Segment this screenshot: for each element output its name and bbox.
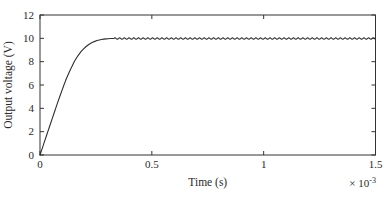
y-tick-label: 12	[23, 9, 34, 21]
x-axis-multiplier: × 10-3	[349, 176, 376, 189]
y-tick-label: 10	[23, 32, 35, 44]
y-tick-label: 6	[29, 79, 35, 91]
x-tick-label: 1	[261, 158, 267, 170]
plot-area-frame	[40, 15, 376, 155]
y-tick-label: 0	[29, 149, 35, 161]
x-axis-multiplier-exponent: -3	[369, 176, 376, 185]
axis-ticks	[40, 15, 376, 155]
y-tick-label: 2	[29, 125, 35, 137]
y-tick-label: 8	[29, 55, 35, 67]
x-tick-label: 0.5	[145, 158, 159, 170]
x-tick-label: 1.5	[369, 158, 383, 170]
x-axis-multiplier-base: × 10	[349, 177, 369, 189]
voltage-step-response-figure: 00.511.5024681012 Time (s) Output voltag…	[0, 0, 392, 204]
y-axis-label: Output voltage (V)	[2, 41, 15, 129]
x-axis-label: Time (s)	[188, 176, 227, 189]
axis-tick-labels: 00.511.5024681012	[23, 9, 383, 171]
output-voltage-curve	[40, 38, 375, 155]
x-tick-label: 0	[37, 158, 43, 170]
y-tick-label: 4	[29, 102, 35, 114]
line-chart: 00.511.5024681012 Time (s) Output voltag…	[0, 0, 392, 204]
